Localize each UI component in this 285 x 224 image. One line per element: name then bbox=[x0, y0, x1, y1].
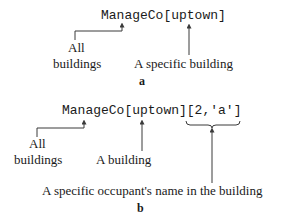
panel-b-a-building-label: A building bbox=[96, 153, 151, 167]
panel-a-buildings-label: buildings bbox=[53, 57, 101, 71]
panel-a-all-label: All bbox=[68, 41, 85, 55]
panel-a-specific-building-label: A specific building bbox=[134, 57, 233, 71]
panel-b-all-buildings-arrow bbox=[37, 122, 84, 137]
panel-a-code-expression: ManageCo[uptown] bbox=[101, 9, 226, 23]
panel-a-all-buildings-arrow bbox=[75, 25, 122, 40]
panel-b-code-expression: ManageCo[uptown][2,'a'] bbox=[62, 104, 241, 118]
panel-b-all-label: All bbox=[29, 137, 46, 151]
panel-b-caption: b bbox=[137, 202, 144, 214]
panel-b-brace bbox=[186, 121, 240, 128]
panel-a-caption: a bbox=[139, 75, 145, 87]
panel-b-buildings-label: buildings bbox=[14, 153, 62, 167]
panel-b-occupant-label: A specific occupant's name in the buildi… bbox=[42, 184, 262, 198]
